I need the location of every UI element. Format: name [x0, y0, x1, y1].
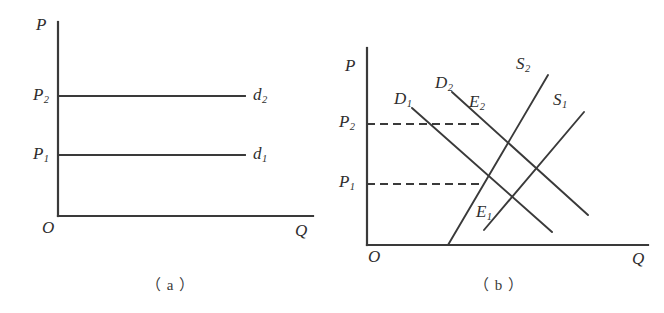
panel-a-tick-label-p2: P2 — [33, 86, 49, 103]
panel-b-curve-s2 — [448, 75, 548, 245]
panel-a-y-axis-label: P — [36, 16, 46, 33]
panel-a-caption: （ a ） — [146, 273, 195, 294]
panel-b-plot — [332, 0, 664, 313]
panel-b: P Q O P2 P1 D1 D2 S2 S1 E2 E1 — [332, 0, 664, 313]
panel-b-tick-label-p2: P2 — [339, 113, 355, 130]
panel-a-plot — [0, 0, 332, 313]
panel-b-point-label-e1: E1 — [476, 203, 492, 220]
panel-a-curve-label-d1: d1 — [253, 145, 267, 162]
panel-b-caption: （ b ） — [474, 273, 524, 294]
panel-b-x-axis-label: Q — [632, 250, 644, 267]
panel-b-tick-label-p1: P1 — [339, 173, 355, 190]
panel-b-point-label-e2: E2 — [469, 93, 485, 110]
panel-a-curve-label-d2: d2 — [253, 86, 267, 103]
panel-b-curve-label-d1: D1 — [394, 90, 412, 107]
panel-b-curve-label-s1: S1 — [553, 91, 567, 108]
panel-b-origin-label: O — [368, 248, 380, 265]
panel-b-curve-label-s2: S2 — [516, 55, 530, 72]
panel-b-curve-s1 — [484, 112, 584, 230]
panel-a-tick-label-p1: P1 — [33, 145, 49, 162]
panel-b-curve-label-d2: D2 — [435, 74, 453, 91]
figure-root: P Q O P2 P1 d2 d1 （ a ） — [0, 0, 664, 313]
panel-a-x-axis-label: Q — [295, 222, 307, 239]
panel-a: P Q O P2 P1 d2 d1 （ a ） — [0, 0, 332, 313]
panel-a-origin-label: O — [42, 219, 54, 236]
panel-b-y-axis-label: P — [345, 57, 355, 74]
